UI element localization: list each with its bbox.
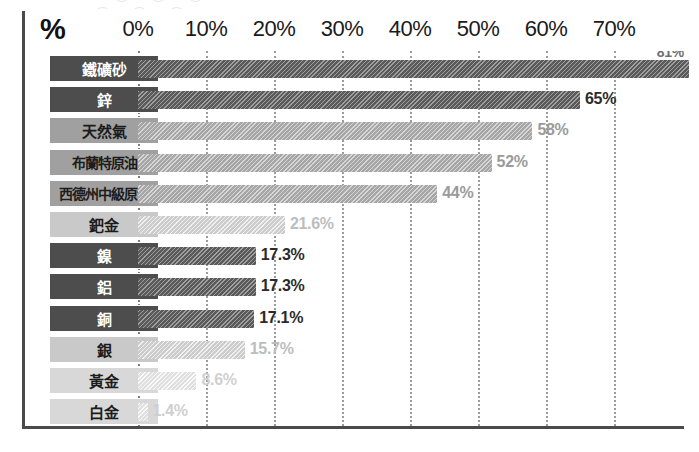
bar <box>138 310 254 328</box>
bar-row: 布蘭特原油52% <box>25 148 684 179</box>
bar-row: 鎳17.3% <box>25 241 684 272</box>
x-axis-tick-label: 20% <box>253 16 296 42</box>
bar-row: 銅17.1% <box>25 304 684 335</box>
bar <box>138 185 437 203</box>
x-axis-tick-label: 10% <box>185 16 228 42</box>
bar-row: 銀15.7% <box>25 335 684 366</box>
bar-row: 天然氣58% <box>25 116 684 147</box>
bar-row: 鐵礦砂81% <box>25 54 684 85</box>
bar <box>138 216 285 234</box>
bar-value-label: 17.3% <box>261 277 305 295</box>
bar <box>138 91 580 109</box>
x-axis-header: % 0%10%20%30%40%50%60%70% <box>22 11 684 51</box>
plot-area: 鐵礦砂81%鋅65%天然氣58%布蘭特原油52%西德州中級原油44%鈀金21.6… <box>25 51 684 426</box>
bar-row: 鈀金21.6% <box>25 210 684 241</box>
x-axis-tick-label: 60% <box>525 16 568 42</box>
bar-value-label: 21.6% <box>290 215 334 233</box>
bar-value-label: 52% <box>497 153 528 171</box>
bar-value-label: 44% <box>442 184 473 202</box>
bar-row: 西德州中級原油44% <box>25 179 684 210</box>
bar <box>138 278 256 296</box>
bar-value-label: 1.4% <box>153 402 188 420</box>
bar-value-label: 17.3% <box>261 246 305 264</box>
bar-row: 黃金8.6% <box>25 366 684 397</box>
bar-chart-figure: ︵ ︶ ︵ ︶ ︵ ︶ % 0%10%20%30%40%50%60%70% 鐵礦… <box>0 0 699 452</box>
bar <box>138 372 196 390</box>
bar-row: 鋅65% <box>25 85 684 116</box>
bar-value-label: 15.7% <box>250 340 294 358</box>
bar <box>138 341 245 359</box>
bar <box>138 154 492 172</box>
bar-value-label: 17.1% <box>259 309 303 327</box>
x-axis-tick-label: 0% <box>123 16 154 42</box>
percent-unit-symbol: % <box>40 13 65 46</box>
x-axis-tick-label: 50% <box>457 16 500 42</box>
plot-frame: % 0%10%20%30%40%50%60%70% 鐵礦砂81%鋅65%天然氣5… <box>22 11 684 440</box>
clipped-title-remnant: ︵ ︶ ︵ ︶ ︵ ︶ <box>0 0 699 9</box>
bar <box>138 247 256 265</box>
bar-value-label: 58% <box>537 121 568 139</box>
bar-value-label: 65% <box>585 90 616 108</box>
x-axis-tick-label: 30% <box>321 16 364 42</box>
bar <box>138 60 689 78</box>
bar-row: 白金1.4% <box>25 397 684 428</box>
bar-row: 鋁17.3% <box>25 272 684 303</box>
bar-value-label: 8.6% <box>201 371 236 389</box>
x-axis-tick-label: 40% <box>389 16 432 42</box>
x-axis-tick-label: 70% <box>593 16 636 42</box>
bar <box>138 403 148 421</box>
bar <box>138 122 532 140</box>
